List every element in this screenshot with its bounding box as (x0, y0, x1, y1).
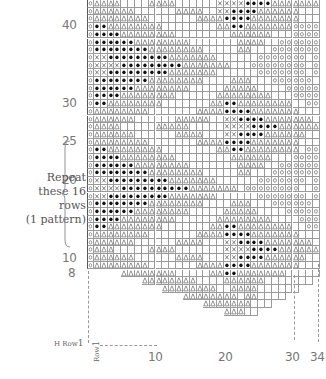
stitch-cell (265, 300, 272, 308)
circle-icon (258, 54, 264, 61)
stitch-cell (142, 177, 149, 185)
cross-icon (224, 123, 230, 130)
dot-icon (114, 31, 120, 38)
stitch-cell (121, 77, 128, 85)
circle-icon (286, 77, 292, 84)
triangle-icon (135, 139, 141, 146)
stitch-cell (299, 85, 306, 93)
stitch-cell (245, 69, 252, 77)
stitch-cell (265, 69, 272, 77)
stitch-cell (238, 231, 245, 239)
stitch-cell (142, 62, 149, 70)
stitch-cell (176, 108, 183, 116)
stitch-cell (87, 246, 94, 254)
stitch-cell (135, 239, 142, 247)
circle-icon (88, 0, 93, 7)
stitch-cell (210, 8, 217, 16)
stitch-cell (238, 185, 245, 193)
stitch-cell (135, 169, 142, 177)
dot-icon (94, 46, 100, 53)
col-label-20: 20 (218, 350, 232, 364)
triangle-icon (156, 77, 162, 84)
triangle-icon (238, 77, 244, 84)
stitch-cell (258, 0, 265, 8)
stitch-cell (162, 200, 169, 208)
stitch-cell (169, 277, 176, 285)
stitch-cell (251, 216, 258, 224)
stitch-cell (210, 200, 217, 208)
stitch-cell (293, 177, 300, 185)
stitch-cell (224, 146, 231, 154)
circle-icon (299, 216, 305, 223)
circle-icon (88, 23, 93, 30)
stitch-cell (245, 39, 252, 47)
triangle-icon (108, 239, 114, 246)
stitch-cell (176, 270, 183, 278)
circle-icon (306, 46, 312, 53)
stitch-cell (313, 185, 320, 193)
stitch-cell (142, 193, 149, 201)
stitch-cell (156, 54, 163, 62)
circle-icon (88, 8, 93, 15)
stitch-cell (108, 54, 115, 62)
stitch-cell (162, 177, 169, 185)
stitch-cell (101, 162, 108, 170)
stitch-cell (197, 277, 204, 285)
stitch-cell (101, 146, 108, 154)
circle-icon (286, 162, 292, 169)
circle-icon (279, 39, 285, 46)
dot-icon (121, 46, 127, 53)
dot-icon (135, 200, 141, 207)
stitch-cell (156, 200, 163, 208)
circle-icon (88, 100, 93, 107)
triangle-icon (238, 223, 244, 230)
stitch-cell (265, 216, 272, 224)
cross-icon (224, 246, 230, 253)
stitch-cell (101, 154, 108, 162)
triangle-icon (156, 39, 162, 46)
stitch-cell (313, 100, 320, 108)
stitch-cell (293, 254, 300, 262)
stitch-cell (87, 146, 94, 154)
stitch-cell (224, 131, 231, 139)
dot-icon (121, 69, 127, 76)
stitch-cell (87, 39, 94, 47)
col-label-30: 30 (285, 350, 299, 364)
stitch-cell (203, 293, 210, 301)
circle-icon (272, 200, 278, 207)
stitch-cell (224, 193, 231, 201)
stitch-cell (293, 8, 300, 16)
triangle-icon (251, 146, 257, 153)
dot-icon (149, 177, 155, 184)
dot-icon (94, 100, 100, 107)
stitch-cell (162, 0, 169, 8)
stitch-cell (135, 108, 142, 116)
stitch-cell (176, 100, 183, 108)
stitch-cell (156, 8, 163, 16)
triangle-icon (258, 270, 264, 277)
stitch-cell (251, 139, 258, 147)
stitch-cell (197, 8, 204, 16)
stitch-cell (183, 108, 190, 116)
stitch-cell (313, 116, 320, 124)
stitch-cell (272, 15, 279, 23)
triangle-icon (156, 277, 162, 284)
stitch-cell (210, 46, 217, 54)
circle-icon (299, 39, 305, 46)
stitch-cell (231, 177, 238, 185)
stitch-cell (101, 177, 108, 185)
stitch-cell (265, 85, 272, 93)
stitch-cell (121, 92, 128, 100)
stitch-cell (299, 100, 306, 108)
circle-icon (88, 77, 93, 84)
stitch-cell (265, 123, 272, 131)
triangle-icon (101, 116, 107, 123)
stitch-cell (135, 193, 142, 201)
stitch-cell (114, 254, 121, 262)
stitch-cell (149, 146, 156, 154)
stitch-cell (258, 139, 265, 147)
dot-icon (101, 162, 107, 169)
stitch-cell (217, 69, 224, 77)
stitch-cell (258, 216, 265, 224)
triangle-icon (293, 254, 299, 261)
